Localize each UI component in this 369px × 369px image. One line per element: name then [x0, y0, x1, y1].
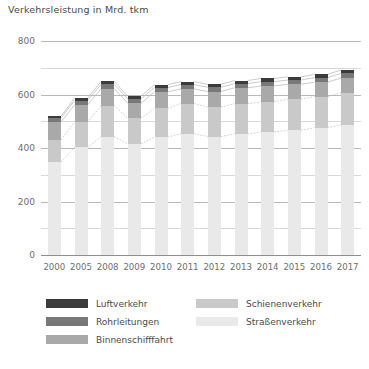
bar-segment [208, 107, 221, 136]
bar-segment [235, 88, 248, 104]
bar-segment [155, 85, 168, 88]
bar-segment [48, 140, 61, 162]
bar-stack [75, 41, 88, 255]
bar-segment [155, 92, 168, 109]
bar-segment [48, 162, 61, 255]
x-axis-tick-label: 2017 [328, 262, 368, 272]
bar-segment [235, 81, 248, 84]
legend-item[interactable]: Straßenverkehr [196, 314, 322, 329]
bar-segment [288, 84, 301, 99]
bar-segment [208, 92, 221, 108]
y-axis-tick-label: 600 [0, 90, 35, 100]
legend-item[interactable]: Rohrleitungen [46, 314, 173, 329]
legend-swatch [196, 299, 238, 308]
bar-stack [155, 41, 168, 255]
legend-label: Straßenverkehr [246, 317, 316, 327]
y-axis-tick-label: 200 [0, 197, 35, 207]
chart-legend: LuftverkehrRohrleitungenBinnenschifffahr… [46, 296, 356, 358]
bar-segment [181, 85, 194, 89]
bar-segment [101, 84, 114, 88]
chart-container: Verkehrsleistung in Mrd. tkm Luftverkehr… [0, 0, 369, 369]
bar-stack [208, 41, 221, 255]
bar-segment [75, 98, 88, 100]
bar-segment [288, 99, 301, 130]
chart-title: Verkehrsleistung in Mrd. tkm [8, 4, 149, 15]
legend-label: Rohrleitungen [96, 317, 159, 327]
legend-swatch [196, 317, 238, 326]
legend-swatch [46, 335, 88, 344]
bar-segment [101, 137, 114, 255]
axis-baseline [41, 255, 361, 256]
bar-segment [261, 86, 274, 102]
bar-segment [128, 118, 141, 144]
bar-segment [48, 122, 61, 140]
bar-segment [128, 144, 141, 255]
bar-stack [101, 41, 114, 255]
y-axis-tick-label: 800 [0, 36, 35, 46]
bar-segment [75, 105, 88, 122]
bar-stack [315, 41, 328, 255]
bar-segment [101, 106, 114, 137]
bar-segment [315, 74, 328, 77]
bar-segment [101, 81, 114, 84]
legend-label: Luftverkehr [96, 299, 148, 309]
bar-segment [261, 82, 274, 86]
bar-segment [261, 78, 274, 81]
bar-segment [288, 77, 301, 80]
bar-segment [155, 88, 168, 92]
bar-segment [128, 99, 141, 103]
bar-segment [235, 84, 248, 88]
bar-segment [48, 118, 61, 122]
bar-stack [261, 41, 274, 255]
bar-segment [208, 137, 221, 256]
bar-segment [181, 134, 194, 255]
bar-segment [181, 89, 194, 104]
legend-item[interactable]: Binnenschifffahrt [46, 332, 173, 347]
legend-swatch [46, 317, 88, 326]
bar-segment [315, 78, 328, 83]
bar-segment [315, 128, 328, 255]
legend-label: Binnenschifffahrt [96, 335, 173, 345]
bar-segment [341, 125, 354, 255]
bar-segment [128, 103, 141, 118]
bar-segment [288, 130, 301, 255]
bar-stack [128, 41, 141, 255]
bar-stack [288, 41, 301, 255]
legend-column-1: LuftverkehrRohrleitungenBinnenschifffahr… [46, 296, 173, 350]
bar-segment [101, 89, 114, 106]
bar-segment [181, 82, 194, 85]
legend-label: Schienenverkehr [246, 299, 322, 309]
bar-segment [235, 134, 248, 255]
bar-stack [235, 41, 248, 255]
bar-segment [75, 147, 88, 255]
bar-segment [75, 122, 88, 147]
bar-segment [315, 97, 328, 128]
bar-segment [155, 108, 168, 137]
bar-segment [155, 137, 168, 255]
plot-area [41, 41, 361, 255]
bar-segment [288, 80, 301, 84]
bar-segment [315, 82, 328, 96]
bar-segment [128, 96, 141, 99]
y-axis-tick-label: 400 [0, 143, 35, 153]
bar-stack [48, 41, 61, 255]
legend-swatch [46, 299, 88, 308]
legend-item[interactable]: Luftverkehr [46, 296, 173, 311]
bar-segment [261, 102, 274, 132]
bar-segment [341, 70, 354, 73]
bars-layer [41, 41, 361, 255]
bar-segment [48, 116, 61, 118]
legend-column-2: SchienenverkehrStraßenverkehr [196, 296, 322, 332]
bar-segment [181, 104, 194, 134]
y-axis-tick-label: 0 [0, 250, 35, 260]
bar-segment [208, 87, 221, 91]
bar-stack [341, 41, 354, 255]
legend-item[interactable]: Schienenverkehr [196, 296, 322, 311]
bar-stack [181, 41, 194, 255]
bar-segment [75, 101, 88, 105]
bar-segment [341, 73, 354, 78]
bar-segment [341, 93, 354, 125]
bar-segment [341, 78, 354, 93]
bar-segment [261, 132, 274, 255]
bar-segment [235, 104, 248, 134]
